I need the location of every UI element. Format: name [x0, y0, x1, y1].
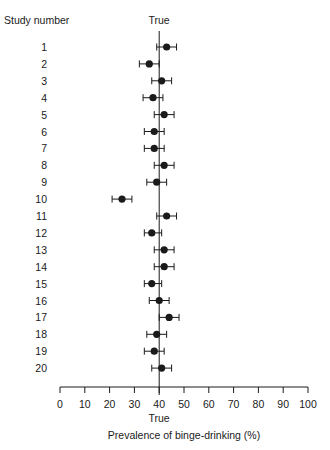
study-number-label: 10	[35, 193, 47, 205]
study-row: 12	[35, 227, 161, 239]
study-number-label: 13	[35, 244, 47, 256]
study-number-label: 16	[35, 295, 47, 307]
x-tick-label: 90	[277, 398, 289, 410]
study-number-label: 19	[35, 345, 47, 357]
point-estimate-marker	[163, 212, 170, 219]
x-tick-label: 70	[228, 398, 240, 410]
reference-label-top: True	[148, 14, 169, 26]
study-row: 13	[35, 244, 174, 256]
forest-plot: Study number True 1234567891011121314151…	[0, 0, 330, 450]
study-number-label: 6	[41, 126, 47, 138]
study-number-label: 3	[41, 75, 47, 87]
x-tick-label: 0	[57, 398, 63, 410]
study-row: 3	[41, 75, 171, 87]
study-row: 11	[36, 210, 176, 222]
study-number-label: 20	[35, 362, 47, 374]
study-number-label: 11	[36, 210, 47, 222]
point-estimate-marker	[166, 314, 173, 321]
reference-label-bottom: True	[148, 412, 169, 424]
study-rows: 1234567891011121314151617181920	[35, 41, 179, 374]
study-number-label: 18	[35, 328, 47, 340]
point-estimate-marker	[151, 348, 158, 355]
study-number-label: 14	[35, 261, 47, 273]
x-tick-label: 60	[203, 398, 215, 410]
point-estimate-marker	[118, 196, 125, 203]
study-row: 1	[41, 41, 176, 53]
point-estimate-marker	[161, 111, 168, 118]
row-header-label: Study number	[4, 14, 70, 26]
x-tick-label: 20	[104, 398, 116, 410]
study-row: 6	[41, 126, 164, 138]
point-estimate-marker	[161, 162, 168, 169]
point-estimate-marker	[151, 145, 158, 152]
study-number-label: 12	[35, 227, 47, 239]
point-estimate-marker	[149, 94, 156, 101]
study-number-label: 2	[41, 58, 47, 70]
study-number-label: 5	[41, 109, 47, 121]
x-axis-title: Prevalence of binge-drinking (%)	[108, 429, 260, 441]
study-row: 15	[35, 278, 161, 290]
x-tick-label: 50	[178, 398, 190, 410]
study-row: 10	[35, 193, 132, 205]
x-tick-label: 100	[299, 398, 317, 410]
study-row: 17	[35, 311, 179, 323]
study-row: 16	[35, 295, 169, 307]
study-row: 7	[41, 142, 164, 154]
point-estimate-marker	[148, 280, 155, 287]
x-tick-label: 10	[79, 398, 91, 410]
study-number-label: 1	[41, 41, 47, 53]
point-estimate-marker	[151, 128, 158, 135]
point-estimate-marker	[161, 263, 168, 270]
point-estimate-marker	[161, 246, 168, 253]
study-number-label: 7	[41, 142, 47, 154]
study-number-label: 15	[35, 278, 47, 290]
point-estimate-marker	[163, 43, 170, 50]
study-number-label: 17	[35, 311, 47, 323]
point-estimate-marker	[148, 229, 155, 236]
study-number-label: 8	[41, 159, 47, 171]
study-row: 20	[35, 362, 171, 374]
study-row: 2	[41, 58, 159, 70]
x-tick-label: 30	[129, 398, 141, 410]
study-row: 8	[41, 159, 174, 171]
study-row: 9	[41, 176, 166, 188]
x-axis: 0102030405060708090100	[57, 387, 317, 410]
study-number-label: 9	[41, 176, 47, 188]
study-row: 5	[41, 109, 174, 121]
study-row: 4	[41, 92, 163, 104]
study-row: 18	[35, 328, 166, 340]
x-tick-label: 40	[153, 398, 165, 410]
study-row: 19	[35, 345, 164, 357]
study-row: 14	[35, 261, 174, 273]
x-tick-label: 80	[253, 398, 265, 410]
point-estimate-marker	[146, 60, 153, 67]
study-number-label: 4	[41, 92, 47, 104]
